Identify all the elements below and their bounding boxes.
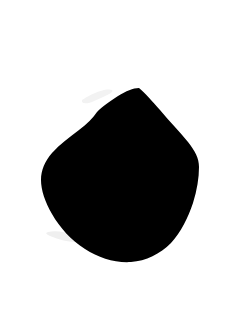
image-canvas: Black silhouette on white background	[0, 0, 250, 325]
silhouette-svg	[0, 0, 250, 325]
